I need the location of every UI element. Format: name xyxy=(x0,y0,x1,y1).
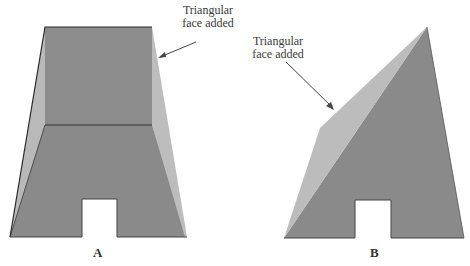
figure-b-shape xyxy=(284,27,464,239)
figure-a-annotation-line2: face added xyxy=(178,17,238,30)
figure-a-caption: A xyxy=(93,245,102,261)
figure-a-shape xyxy=(10,27,187,237)
figure-a-annotation: Triangular face added xyxy=(178,4,238,30)
figure-b-caption: B xyxy=(370,245,379,261)
diagram-canvas xyxy=(0,0,470,266)
figure-b-arrowhead-icon xyxy=(326,102,334,110)
figure-a-top-face xyxy=(45,27,152,125)
figure-a-arrowhead-icon xyxy=(158,52,166,58)
figure-b-annotation: Triangular face added xyxy=(248,35,308,61)
figure-b-notch xyxy=(355,200,391,239)
figure-b-arrow xyxy=(286,62,332,107)
figure-b-annotation-line2: face added xyxy=(248,48,308,61)
